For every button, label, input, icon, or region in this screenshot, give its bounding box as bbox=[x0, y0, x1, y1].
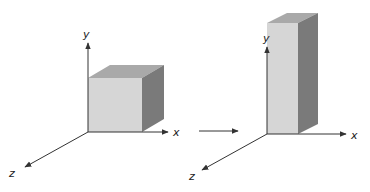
diagram-canvas: y x z y x z bbox=[0, 0, 370, 192]
y-axis-label: y bbox=[262, 32, 270, 45]
stretch-transformation-diagram: y x z y x z bbox=[0, 0, 370, 192]
cube bbox=[88, 65, 164, 132]
z-axis-label: z bbox=[188, 170, 195, 183]
cube-front-face bbox=[88, 78, 142, 132]
tall-prism bbox=[267, 13, 318, 134]
prism-front-face bbox=[267, 23, 298, 134]
left-cube-figure: y x z bbox=[8, 28, 180, 180]
right-prism-figure: y x z bbox=[188, 13, 358, 183]
x-axis-label: x bbox=[172, 126, 180, 139]
x-axis-label: x bbox=[350, 129, 358, 142]
z-axis bbox=[25, 132, 88, 167]
y-axis-label: y bbox=[82, 28, 90, 41]
z-axis bbox=[202, 134, 267, 170]
z-axis-label: z bbox=[8, 167, 15, 180]
prism-side-face bbox=[298, 13, 318, 134]
